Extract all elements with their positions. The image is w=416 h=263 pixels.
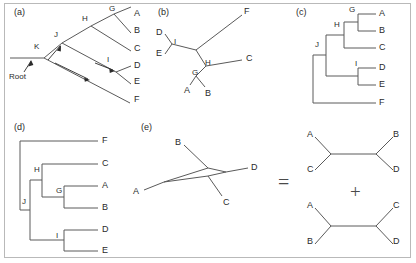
panel-a-node-I: I	[107, 55, 109, 64]
panel-d-node-J: J	[22, 197, 26, 206]
panel-d-node-H: H	[34, 165, 40, 174]
panel-c: (c)	[288, 0, 416, 112]
panel-b-tip-C: C	[246, 53, 253, 63]
panel-c-tip-D: D	[379, 62, 386, 72]
panel-a-tip-F: F	[134, 94, 140, 104]
panel-d-tip-A: A	[102, 180, 108, 190]
panel-c-tip-E: E	[379, 79, 385, 89]
panel-c-tip-F: F	[379, 97, 385, 107]
panel-c-tip-B: B	[379, 25, 385, 35]
panel-e-tree-bottom-tip-B: B	[307, 236, 313, 246]
panel-d-tip-C: C	[102, 158, 109, 168]
panel-e-network-tip-C: C	[223, 197, 230, 207]
panel-d-node-I: I	[56, 231, 58, 240]
panel-c-tip-A: A	[379, 8, 385, 18]
panel-e-tree-top-tip-B: B	[393, 129, 399, 139]
equals-symbol: =	[278, 172, 289, 192]
panel-d-tip-B: B	[102, 202, 108, 212]
panel-a-tip-A: A	[134, 8, 140, 18]
panel-e: (e) B D A C = +	[130, 114, 416, 263]
panel-c-node-H: H	[334, 20, 340, 29]
panel-e-tree-bottom-tip-A: A	[307, 200, 313, 210]
panel-a-root-label: Root	[9, 72, 26, 81]
panel-a-node-J: J	[54, 30, 58, 39]
panel-a-tree-graphic	[0, 0, 150, 112]
panel-e-tree-bottom-tip-D: D	[393, 236, 400, 246]
panel-a-tip-D: D	[134, 60, 141, 70]
panel-e-tree-bottom-tip-C: C	[393, 200, 400, 210]
panel-e-network-tip-D: D	[251, 162, 258, 172]
panel-e-network-graphic	[130, 114, 280, 263]
panel-b-tip-E: E	[156, 48, 162, 58]
panel-a-node-G: G	[109, 4, 115, 13]
panel-b-node-G: G	[192, 68, 198, 77]
panel-c-node-G: G	[349, 5, 355, 14]
panel-d-tree-graphic	[0, 114, 130, 263]
panel-d-tip-E: E	[102, 245, 108, 255]
panel-c-node-I: I	[355, 59, 357, 68]
panel-d-tip-D: D	[102, 224, 109, 234]
panel-d-node-G: G	[56, 186, 62, 195]
panel-c-tree-graphic	[288, 0, 416, 112]
panel-a-tip-B: B	[134, 25, 140, 35]
panel-e-tree-top-tip-C: C	[307, 164, 314, 174]
panel-a-tip-C: C	[134, 43, 141, 53]
panel-b-tip-A: A	[184, 85, 190, 95]
panel-e-tree-top-tip-D: D	[393, 164, 400, 174]
panel-b: (b) F D E C A B I H	[148, 0, 268, 112]
panel-e-tree-top-tip-A: A	[307, 129, 313, 139]
panel-b-tip-D: D	[156, 27, 163, 37]
panel-c-node-J: J	[315, 40, 319, 49]
panel-a-node-K: K	[34, 42, 39, 51]
panel-b-tip-F: F	[244, 6, 250, 16]
panel-e-network-tip-A: A	[133, 186, 139, 196]
panel-d-tip-F: F	[102, 135, 108, 145]
panel-a-tip-E: E	[134, 76, 140, 86]
panel-a-node-H: H	[82, 14, 88, 23]
panel-a: (a)	[0, 0, 150, 112]
panel-c-tip-C: C	[379, 42, 386, 52]
panel-e-network-tip-B: B	[175, 137, 181, 147]
phylogenetic-tree-figure: (a)	[0, 0, 416, 263]
panel-b-node-H: H	[205, 58, 211, 67]
panel-b-node-I: I	[174, 37, 176, 46]
panel-b-tip-B: B	[205, 88, 211, 98]
panel-d: (d)	[0, 114, 130, 263]
